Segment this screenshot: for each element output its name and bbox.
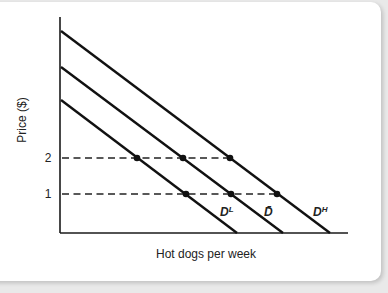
- curve-demand-low: [61, 100, 237, 233]
- curve-label-low-sup: L: [229, 205, 234, 214]
- y-tick-2: 2: [45, 151, 52, 165]
- curve-label-high-main: D: [313, 205, 322, 219]
- curve-label-low: DL: [220, 205, 234, 219]
- y-tick-1: 1: [45, 187, 52, 201]
- demand-chart: 2 1 Price ($) Hot dogs per week DL D̄ DH: [0, 0, 388, 293]
- curve-label-low-main: D: [220, 205, 229, 219]
- point-low-price-1: [183, 191, 190, 198]
- point-high-price-1: [274, 191, 281, 198]
- x-axis-title: Hot dogs per week: [156, 247, 257, 261]
- y-axis-title: Price ($): [15, 97, 29, 142]
- point-high-price-2: [227, 155, 234, 162]
- curve-demand-mid: [61, 67, 283, 233]
- curve-label-high-sup: H: [322, 205, 328, 214]
- curve-label-mid: D̄: [264, 205, 273, 219]
- curve-label-high: DH: [313, 205, 328, 219]
- point-mid-price-1: [228, 191, 235, 198]
- point-mid-price-2: [180, 155, 187, 162]
- point-low-price-2: [134, 155, 141, 162]
